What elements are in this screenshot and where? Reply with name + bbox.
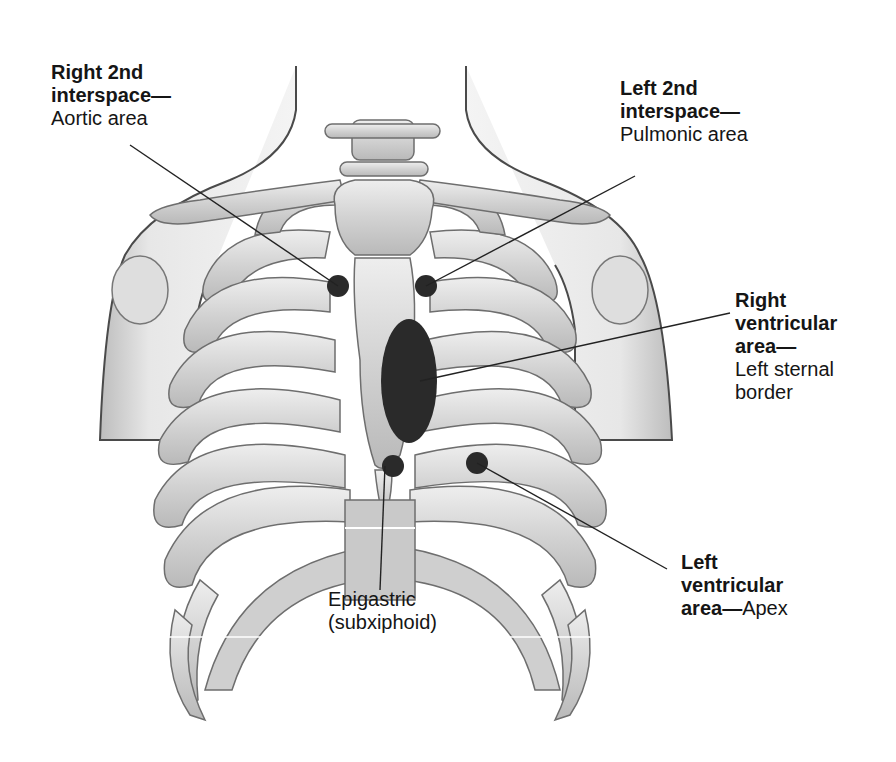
epigastric-line-1: Epigastric bbox=[328, 588, 437, 611]
epigastric-line-2: (subxiphoid) bbox=[328, 611, 437, 634]
pulmonic-title-2: interspace— bbox=[620, 100, 748, 123]
pulmonic-title-1: Left 2nd bbox=[620, 77, 748, 100]
label-right-ventricular-area: Right ventricular area— Left sternal bor… bbox=[735, 289, 837, 404]
aortic-title-1: Right 2nd bbox=[51, 61, 171, 84]
aortic-title-2: interspace— bbox=[51, 84, 171, 107]
rv-title-2: ventricular bbox=[735, 312, 837, 335]
rv-desc-1: Left sternal bbox=[735, 358, 837, 381]
label-pulmonic-area: Left 2nd interspace— Pulmonic area bbox=[620, 77, 748, 146]
right-ventricular-area-marker bbox=[381, 319, 437, 443]
label-aortic-area: Right 2nd interspace— Aortic area bbox=[51, 61, 171, 130]
lv-title-3: area— bbox=[681, 597, 742, 619]
rv-title-1: Right bbox=[735, 289, 837, 312]
lv-desc: Apex bbox=[742, 597, 788, 619]
rv-title-3: area— bbox=[735, 335, 837, 358]
pulmonic-desc: Pulmonic area bbox=[620, 123, 748, 146]
label-epigastric-area: Epigastric (subxiphoid) bbox=[328, 588, 437, 634]
lv-title-2: ventricular bbox=[681, 574, 788, 597]
label-left-ventricular-area: Left ventricular area—Apex bbox=[681, 551, 788, 620]
rv-desc-2: border bbox=[735, 381, 837, 404]
vertebra bbox=[325, 120, 440, 176]
aortic-desc: Aortic area bbox=[51, 107, 171, 130]
lv-title-1: Left bbox=[681, 551, 788, 574]
